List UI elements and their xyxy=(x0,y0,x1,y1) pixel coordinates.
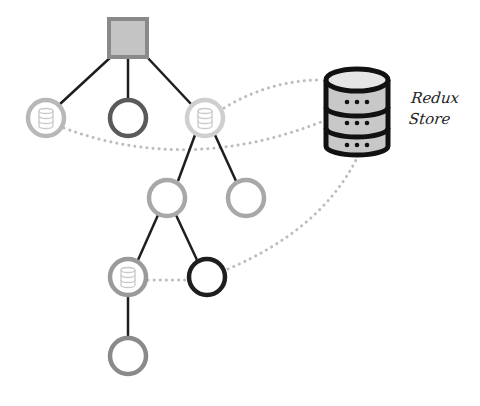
edge-l1right-l2right xyxy=(215,135,236,181)
redux-store-database-icon xyxy=(326,69,388,155)
redux-store-label: Redux Store xyxy=(408,88,460,130)
node-l3-left xyxy=(110,259,146,295)
component-tree-diagram xyxy=(0,0,480,406)
edge-l2left-l3left xyxy=(138,215,158,260)
node-l1-middle xyxy=(110,100,146,136)
node-l2-left xyxy=(149,180,185,216)
edge-l1right-l2left xyxy=(178,135,195,181)
node-l3-right xyxy=(189,259,225,295)
store-label-line2: Store xyxy=(408,109,458,130)
node-l1-right xyxy=(187,100,223,136)
node-l1-left xyxy=(28,100,64,136)
edge-l2left-l3right xyxy=(176,215,197,260)
edge-root-l1-right xyxy=(146,56,191,104)
edge-root-l1-left xyxy=(60,56,112,104)
node-l4 xyxy=(110,338,146,374)
store-link-l1-right xyxy=(224,80,322,108)
node-l2-right xyxy=(228,180,264,216)
root-component-node xyxy=(109,19,147,57)
store-label-line1: Redux xyxy=(410,88,460,109)
